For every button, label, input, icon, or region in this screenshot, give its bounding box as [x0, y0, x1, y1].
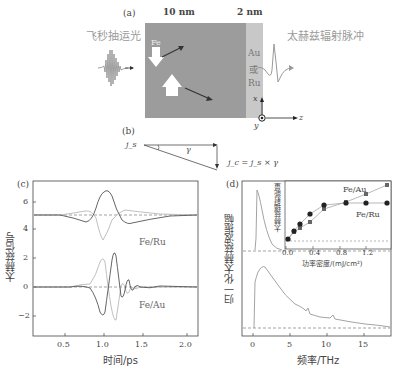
xtick-0.5: 0.5	[57, 340, 70, 349]
panel-d-label: (d)	[226, 179, 239, 189]
freq-tick-15: 15	[358, 340, 368, 349]
jc-equation: j_c = j_s × γ	[228, 158, 278, 167]
axis-z-label: z	[299, 113, 303, 122]
inset-xlabel: 功率密度/(mJ/cm²)	[302, 258, 363, 268]
coordinate-axes-icon	[259, 97, 298, 121]
freq-tick-5: 5	[287, 340, 292, 349]
inset-xtick-0.8: 0.8	[336, 249, 347, 257]
js-label: j_s	[126, 140, 137, 149]
inset-xtick-0.0: 0.0	[282, 249, 293, 257]
fe-au-series-label: Fe/Au	[139, 300, 165, 310]
panel-c-label: (c)	[17, 179, 29, 189]
panel-b-label: (b)	[122, 126, 135, 136]
spin-up-arrow-icon	[162, 74, 182, 96]
inset-xtick-0.4: 0.4	[309, 249, 320, 257]
inset-legend-fe-ru: Fe/Ru	[356, 210, 380, 219]
panel-d-ylabel: 归一化太赫兹波振幅	[222, 214, 237, 304]
axis-x-label: x	[253, 94, 258, 103]
thz-pulse-icon	[256, 44, 294, 82]
panel-c-ylabel: 太赫兹信号	[3, 232, 18, 282]
ytick-0: 0	[23, 282, 28, 291]
panel-a-graphics	[0, 0, 398, 371]
freq-tick-0: 0	[250, 340, 255, 349]
axis-y-label: y	[254, 121, 259, 130]
xtick-1.5: 1.5	[135, 340, 148, 349]
fe-ru-series-label: Fe/Ru	[139, 237, 166, 247]
gamma-label: γ	[186, 145, 191, 154]
ytick-2: 2	[23, 253, 28, 262]
ytick-4: 4	[23, 224, 28, 233]
xtick-2.0: 2.0	[179, 340, 192, 349]
ytick-6: 6	[23, 197, 28, 206]
vector-triangle-diagram	[144, 143, 219, 170]
xtick-1.0: 1.0	[96, 340, 109, 349]
panel-c-plot	[33, 181, 198, 336]
inset-legend-fe-au: Fe/Au	[343, 185, 366, 194]
spin-current-arrow-upper-icon	[162, 46, 184, 57]
pump-pulse-icon	[98, 50, 134, 86]
panel-d-xlabel: 频率/THz	[297, 352, 339, 367]
inset-xtick-1.2: 1.2	[362, 249, 373, 257]
panel-c-xlabel: 时间/ps	[103, 352, 138, 367]
ytick-neg2: −2	[18, 311, 30, 320]
spin-down-arrow-icon	[148, 47, 164, 67]
inset-ylabel: 太赫兹辐射能量	[273, 183, 283, 232]
spin-current-arrow-lower-icon	[185, 88, 213, 101]
freq-tick-10: 10	[321, 340, 331, 349]
